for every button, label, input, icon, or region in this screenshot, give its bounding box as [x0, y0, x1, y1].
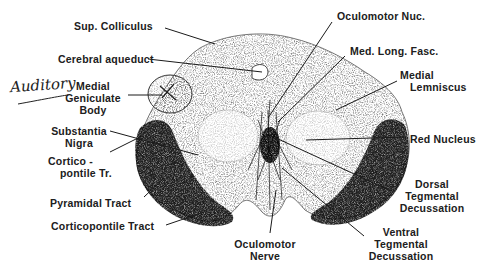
midbrain-diagram: Auditory Sup. Colliculus Cerebral aquedu… [0, 0, 493, 277]
label-line: Decussation [395, 202, 469, 214]
label-red-nucleus: Red Nucleus [410, 133, 476, 145]
label-line: Cortico - [48, 155, 112, 167]
label-line: Body [62, 104, 124, 116]
label-line: Medial [62, 80, 124, 92]
label-cerebral-aqueduct: Cerebral aqueduct [58, 53, 154, 65]
midline-dense-region [260, 127, 280, 163]
red-nucleus-left [198, 110, 258, 162]
label-ventral-tegmental-decussation: Ventral Tegmental Decussation [365, 226, 437, 262]
label-oculomotor-nuc: Oculomotor Nuc. [337, 10, 425, 22]
label-line: Substantia [48, 125, 110, 137]
label-corticopontile-tr: Cortico - pontile Tr. [48, 155, 112, 179]
label-medial-geniculate-body: Medial Geniculate Body [62, 80, 124, 116]
label-line: Tegmental [395, 190, 469, 202]
label-pyramidal-tract: Pyramidal Tract [50, 197, 131, 209]
label-line: Tegmental [365, 238, 437, 250]
handwritten-underline [18, 95, 68, 104]
label-dorsal-tegmental-decussation: Dorsal Tegmental Decussation [395, 178, 469, 214]
label-corticopontile-tract: Corticopontile Tract [51, 220, 154, 232]
label-line: Geniculate [62, 92, 124, 104]
label-line: Nerve [230, 250, 300, 262]
label-oculomotor-nerve: Oculomotor Nerve [230, 238, 300, 262]
label-line: Ventral [365, 226, 437, 238]
label-line: Dorsal [395, 178, 469, 190]
label-line: Decussation [365, 250, 437, 262]
label-med-long-fasc: Med. Long. Fasc. [350, 45, 438, 57]
medial-geniculate-body-shape [148, 75, 192, 113]
label-substantia-nigra: Substantia Nigra [48, 125, 110, 149]
label-line: Medial [400, 69, 467, 81]
label-medial-lemniscus: Medial Lemniscus [400, 69, 467, 93]
label-line: Nigra [48, 137, 110, 149]
label-line: Lemniscus [400, 81, 467, 93]
label-line: pontile Tr. [48, 167, 112, 179]
label-sup-colliculus: Sup. Colliculus [74, 20, 153, 32]
label-line: Oculomotor [230, 238, 300, 250]
